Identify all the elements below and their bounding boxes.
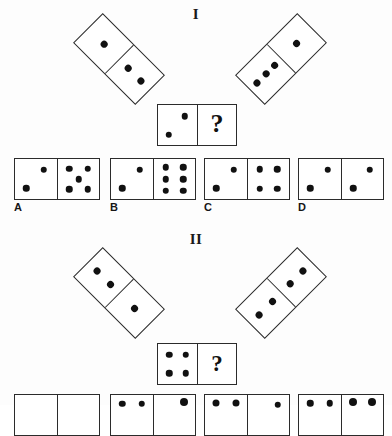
pip bbox=[180, 176, 187, 183]
pip bbox=[119, 401, 126, 408]
section2-right-prompt-domino bbox=[235, 247, 327, 339]
pip bbox=[232, 400, 239, 407]
domino-half-left bbox=[205, 395, 247, 435]
domino-half-left bbox=[205, 159, 247, 199]
option-d-label: D bbox=[298, 201, 306, 213]
pip bbox=[180, 398, 188, 406]
pip bbox=[85, 165, 92, 172]
section2-option-3-domino[interactable] bbox=[204, 394, 290, 436]
pip bbox=[119, 185, 126, 192]
domino-half-right bbox=[341, 395, 383, 435]
domino-half-left bbox=[158, 105, 197, 145]
pip bbox=[99, 39, 109, 49]
pip bbox=[213, 185, 220, 192]
pip bbox=[180, 187, 187, 194]
domino-half-left bbox=[111, 395, 153, 435]
pip bbox=[230, 167, 237, 174]
pip bbox=[274, 185, 281, 192]
option-c-label: C bbox=[204, 201, 212, 213]
pip bbox=[136, 76, 146, 86]
pip bbox=[40, 167, 47, 174]
pip bbox=[136, 167, 143, 174]
pip bbox=[307, 400, 314, 407]
domino-half-question: ? bbox=[197, 344, 236, 384]
pip bbox=[292, 38, 302, 48]
section2-left-prompt-domino bbox=[73, 247, 165, 339]
domino-half-right bbox=[153, 159, 195, 199]
option-b-label: B bbox=[110, 201, 118, 213]
option-d-domino[interactable] bbox=[298, 158, 384, 200]
pip bbox=[252, 78, 262, 88]
section1-right-prompt-domino bbox=[235, 13, 327, 105]
section1-question-domino: ? bbox=[157, 104, 237, 146]
domino-half-right bbox=[247, 159, 289, 199]
pip bbox=[182, 352, 189, 359]
pip bbox=[275, 401, 282, 408]
domino-half-right bbox=[153, 395, 195, 435]
pip bbox=[182, 370, 189, 377]
pip bbox=[254, 310, 264, 320]
pip bbox=[163, 187, 170, 194]
domino-half-left bbox=[299, 395, 341, 435]
pip bbox=[163, 164, 170, 171]
section2-question-domino: ? bbox=[157, 343, 237, 385]
pip bbox=[181, 113, 188, 120]
pip bbox=[163, 176, 170, 183]
pip bbox=[298, 266, 308, 276]
pip bbox=[166, 352, 173, 359]
option-b-domino[interactable] bbox=[110, 158, 196, 200]
section2-option-4-domino[interactable] bbox=[298, 394, 384, 436]
section2-option-1-domino[interactable] bbox=[14, 394, 100, 436]
pip bbox=[367, 167, 374, 174]
pip bbox=[274, 166, 281, 173]
pip bbox=[92, 266, 102, 276]
pip bbox=[123, 63, 133, 73]
option-a-label: A bbox=[14, 201, 22, 213]
pip bbox=[66, 186, 73, 193]
section-label-1: I bbox=[0, 6, 392, 23]
domino-half-left bbox=[111, 159, 153, 199]
pip bbox=[307, 185, 314, 192]
domino-half-right bbox=[57, 159, 99, 199]
section-label-2: II bbox=[0, 231, 392, 248]
pip bbox=[350, 185, 357, 192]
pip bbox=[138, 401, 145, 408]
pip bbox=[75, 176, 82, 183]
option-a-domino[interactable] bbox=[14, 158, 100, 200]
domino-half-right bbox=[341, 159, 383, 199]
domino-half-question: ? bbox=[197, 105, 236, 145]
pip bbox=[261, 69, 271, 79]
pip bbox=[270, 60, 280, 70]
pip bbox=[85, 186, 92, 193]
domino-half-left bbox=[158, 344, 197, 384]
pip bbox=[268, 297, 278, 307]
section1-left-prompt-domino bbox=[73, 13, 165, 105]
domino-half-left bbox=[15, 159, 57, 199]
pip bbox=[368, 398, 376, 406]
pip bbox=[23, 185, 30, 192]
pip bbox=[349, 398, 357, 406]
pip bbox=[166, 131, 173, 138]
pip bbox=[257, 185, 264, 192]
pip bbox=[166, 370, 173, 377]
domino-half-right bbox=[247, 395, 289, 435]
domino-half-right bbox=[57, 395, 99, 435]
pip bbox=[324, 167, 331, 174]
section2-option-2-domino[interactable] bbox=[110, 394, 196, 436]
question-mark: ? bbox=[211, 111, 224, 137]
domino-half-left bbox=[299, 159, 341, 199]
pip bbox=[106, 280, 116, 290]
pip bbox=[213, 400, 220, 407]
domino-half-left bbox=[15, 395, 57, 435]
pip bbox=[285, 279, 295, 289]
option-c-domino[interactable] bbox=[204, 158, 290, 200]
pip bbox=[257, 166, 264, 173]
pip bbox=[130, 304, 140, 314]
pip bbox=[180, 164, 187, 171]
pip bbox=[326, 400, 333, 407]
pip bbox=[66, 165, 73, 172]
question-mark: ? bbox=[211, 352, 223, 375]
